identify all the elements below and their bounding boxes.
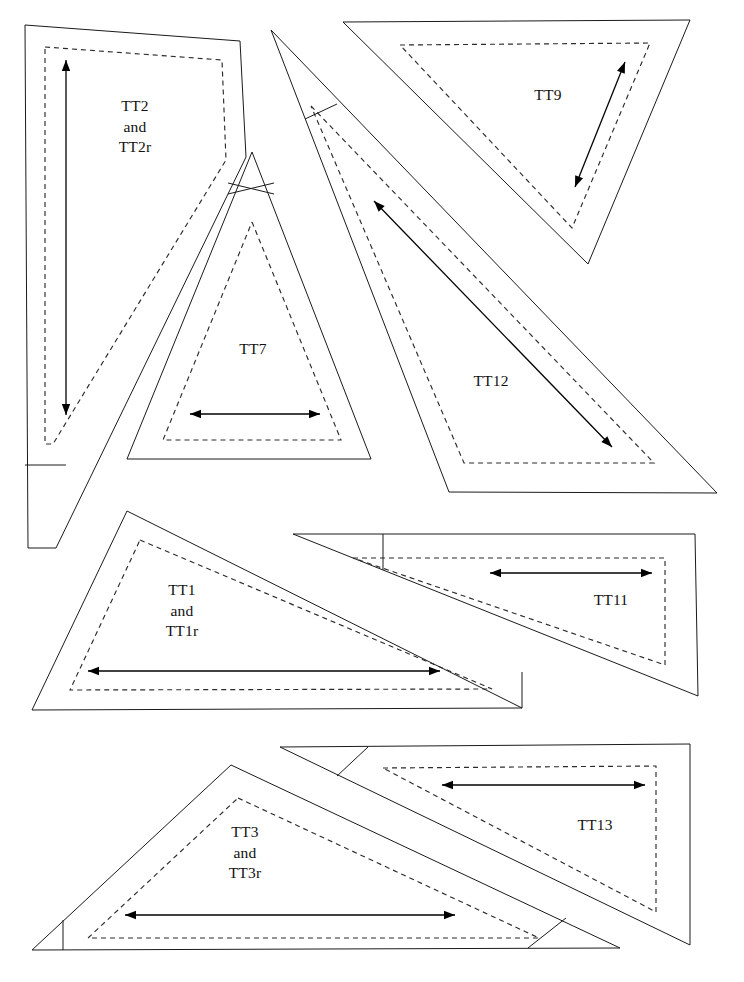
- arrowhead-icon: [62, 404, 70, 415]
- pattern-sheet: TT2 and TT2rTT7TT9TT12TT1 and TT1rTT11TT…: [0, 0, 744, 982]
- notch-line-tt12: [305, 104, 337, 119]
- seam-outline-tt7: [163, 222, 341, 440]
- seam-lines-group: [45, 43, 665, 938]
- cut-outline-tt1: [32, 511, 522, 710]
- piece-label-tt13: TT13: [564, 815, 626, 836]
- cut-outline-tt9: [343, 20, 690, 264]
- cut-lines-group: [25, 20, 717, 950]
- seam-outline-tt1: [70, 540, 492, 690]
- notch-line-tt13: [337, 747, 368, 776]
- cut-outline-tt7: [127, 152, 371, 459]
- arrowhead-icon: [309, 410, 320, 418]
- arrowhead-icon: [62, 60, 70, 71]
- grain-arrow-tt12: [374, 201, 612, 447]
- arrowhead-icon: [575, 175, 583, 187]
- notch-line-tt3: [63, 918, 566, 950]
- arrowhead-icon: [125, 911, 136, 919]
- piece-label-tt11: TT11: [580, 590, 642, 611]
- arrowhead-icon: [442, 781, 453, 789]
- piece-label-tt1: TT1 and TT1r: [146, 580, 218, 642]
- arrowhead-icon: [88, 667, 99, 675]
- seam-outline-tt3: [88, 798, 539, 938]
- piece-label-tt2: TT2 and TT2r: [99, 96, 171, 158]
- arrowhead-icon: [190, 410, 201, 418]
- grain-arrow-tt9: [575, 62, 625, 187]
- seam-outline-tt11: [353, 558, 665, 665]
- arrowhead-icon: [641, 569, 652, 577]
- seam-outline-tt13: [383, 766, 656, 912]
- arrowhead-icon: [444, 911, 455, 919]
- cut-outline-tt12: [271, 30, 717, 493]
- arrowhead-icon: [490, 569, 501, 577]
- piece-label-tt9: TT9: [522, 85, 574, 106]
- grain-arrows-group: [62, 60, 652, 919]
- piece-label-tt7: TT7: [227, 339, 279, 360]
- notch-line-tt7: [228, 183, 274, 194]
- notch-lines-group: [25, 104, 566, 950]
- arrowhead-icon: [429, 667, 440, 675]
- cut-outline-tt3: [32, 765, 620, 950]
- piece-label-tt12: TT12: [460, 371, 522, 392]
- arrowhead-icon: [634, 781, 645, 789]
- arrowhead-icon: [617, 62, 625, 74]
- piece-label-tt3: TT3 and TT3r: [209, 822, 281, 884]
- seam-outline-tt9: [400, 43, 650, 228]
